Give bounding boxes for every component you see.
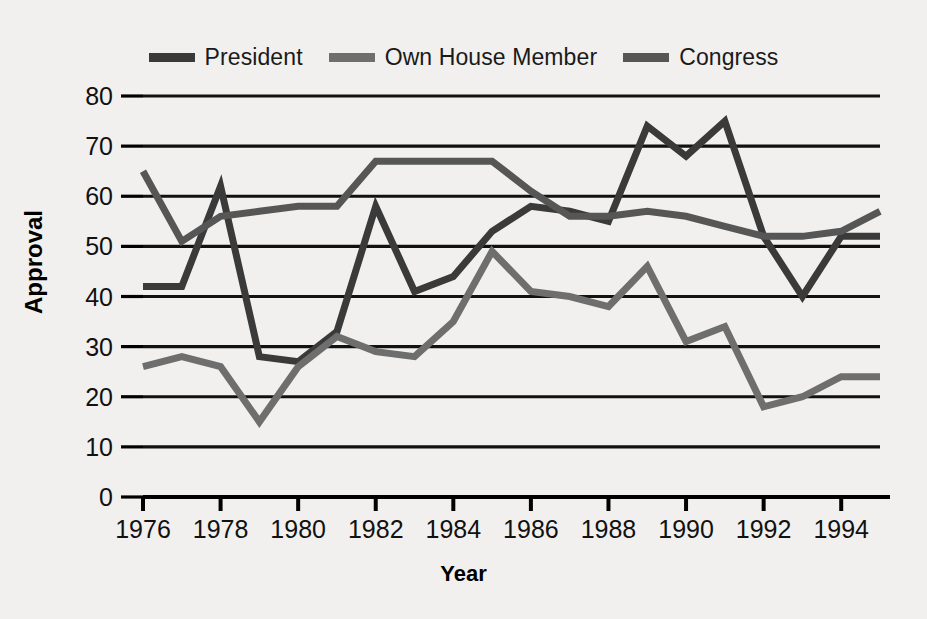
chart-plot-area [0, 0, 927, 619]
series-line-president [143, 121, 880, 362]
series-line-congress [143, 161, 880, 241]
chart-figure: President Own House Member Congress Appr… [0, 0, 927, 619]
